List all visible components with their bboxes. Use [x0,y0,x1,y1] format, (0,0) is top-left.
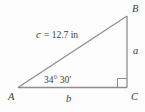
vertex-c-label: C [131,91,139,102]
vertex-a-label: A [7,91,15,102]
hypotenuse-value-label: = 12.7 in [44,30,78,40]
hypotenuse-line [18,16,127,88]
right-angle-icon [118,79,128,88]
triangle-figure: B A C a b c = 12.7 in 34° 30′ [0,0,145,112]
hypotenuse-variable-label: c [36,29,41,40]
side-a-label: a [133,45,138,56]
side-b-label: b [66,93,71,104]
angle-a-label: 34° 30′ [44,75,71,85]
vertex-b-label: B [132,3,139,14]
right-triangle-diagram: B A C a b c = 12.7 in 34° 30′ [0,0,145,112]
